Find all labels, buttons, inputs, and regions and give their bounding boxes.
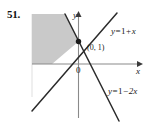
coordinate-plot <box>0 0 161 128</box>
equation-label-lower-line: y=1−2x <box>108 87 137 96</box>
point-label-0-1: (0, 1) <box>87 44 104 52</box>
math-figure: 51. y x 0 (0, 1) y=1+x y=1−2x <box>0 0 161 128</box>
x-axis-label: x <box>136 67 140 76</box>
y-axis-label: y <box>73 11 77 20</box>
equation-lower-term: 2x <box>129 86 138 96</box>
equation-upper-term: x <box>132 26 136 36</box>
equation-upper-const: 1 <box>121 26 126 36</box>
intersection-point-marker <box>76 39 81 44</box>
equation-lower-const: 1 <box>118 86 123 96</box>
equation-label-upper-line: y=1+x <box>111 27 136 36</box>
origin-label: 0 <box>76 66 81 75</box>
